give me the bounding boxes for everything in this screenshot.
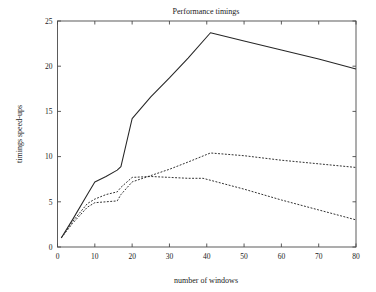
y-tick-label: 25	[45, 17, 53, 26]
y-tick-label: 15	[45, 107, 53, 116]
y-tick-label: 0	[49, 243, 53, 252]
x-tick-label: 10	[91, 252, 99, 261]
y-axis-label: timings speed-ups	[15, 105, 24, 163]
x-tick-label: 50	[240, 252, 248, 261]
x-tick-label: 30	[166, 252, 174, 261]
chart-background	[0, 0, 376, 292]
x-axis-label: number of windows	[174, 276, 238, 285]
x-tick-label: 80	[352, 252, 360, 261]
chart-figure: Performance timings 01020304050607080051…	[0, 0, 376, 292]
x-tick-label: 0	[56, 252, 60, 261]
x-tick-label: 20	[128, 252, 136, 261]
performance-timings-chart: Performance timings 01020304050607080051…	[0, 0, 376, 292]
x-tick-label: 40	[203, 252, 211, 261]
y-tick-label: 10	[45, 152, 53, 161]
x-tick-label: 70	[315, 252, 323, 261]
x-tick-label: 60	[278, 252, 286, 261]
y-tick-label: 20	[45, 62, 53, 71]
y-tick-label: 5	[49, 198, 53, 207]
chart-title: Performance timings	[173, 7, 240, 16]
